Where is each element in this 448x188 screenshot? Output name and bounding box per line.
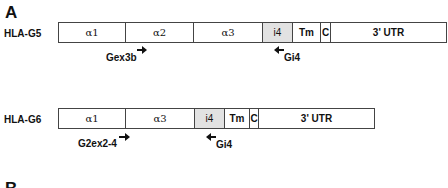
forward-primer-arrow-icon — [119, 136, 128, 138]
exon-alpha3: α3 — [126, 109, 195, 128]
exon-alpha3: α3 — [194, 23, 263, 42]
exon-tm: Tm — [293, 23, 321, 42]
exon-c: C — [250, 109, 259, 128]
exon-alpha1: α1 — [59, 109, 126, 128]
intron-i4: i4 — [263, 23, 293, 42]
intron-i4: i4 — [195, 109, 225, 128]
hla-g6-transcript: α1 α3 i4 Tm C 3' UTR — [58, 108, 375, 129]
exon-tm: Tm — [225, 109, 250, 128]
hla-g5-label: HLA-G5 — [4, 29, 41, 39]
forward-primer-arrow-icon — [137, 49, 145, 51]
hla-g6-label: HLA-G6 — [4, 115, 41, 125]
primer-gex3b-label: Gex3b — [106, 53, 137, 63]
exon-alpha2: α2 — [126, 23, 194, 42]
three-prime-utr: 3' UTR — [259, 109, 374, 128]
primer-g2ex2-4-label: G2ex2-4 — [78, 139, 117, 149]
primer-gi4-label: Gi4 — [284, 53, 300, 63]
exon-c: C — [321, 23, 331, 42]
exon-alpha1: α1 — [59, 23, 126, 42]
primer-gi4-label: Gi4 — [216, 140, 232, 150]
reverse-primer-arrow-icon — [208, 136, 216, 138]
three-prime-utr: 3' UTR — [331, 23, 446, 42]
panel-a-label: A — [5, 4, 17, 21]
reverse-primer-arrow-icon — [276, 49, 284, 51]
hla-g5-transcript: α1 α2 α3 i4 Tm C 3' UTR — [58, 22, 447, 43]
panel-b-label: B — [5, 180, 17, 188]
